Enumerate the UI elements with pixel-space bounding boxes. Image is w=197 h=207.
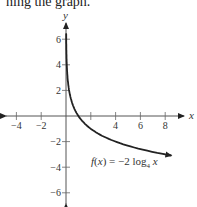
- y-tick-label: 4: [56, 59, 61, 70]
- y-axis-label: y: [62, 9, 68, 21]
- y-tick-label: 2: [56, 85, 61, 96]
- y-tick-label: −6: [50, 187, 61, 198]
- y-tick-label: 6: [56, 34, 61, 45]
- x-tick-label: 8: [163, 120, 168, 131]
- x-tick-label: 4: [113, 120, 118, 131]
- function-label: f(x) = −2 log4 x: [91, 155, 158, 170]
- y-tick-label: −4: [50, 162, 61, 173]
- function-curve: [66, 33, 171, 155]
- x-axis-label: x: [188, 109, 194, 121]
- chart: −4−2468 −6−4−2246 x y f(x) = −2 log4 x: [0, 0, 197, 207]
- x-tick-label: 6: [138, 120, 143, 131]
- x-tick-label: −2: [36, 120, 47, 131]
- y-tick-label: −2: [50, 136, 61, 147]
- x-tick-label: −4: [11, 120, 22, 131]
